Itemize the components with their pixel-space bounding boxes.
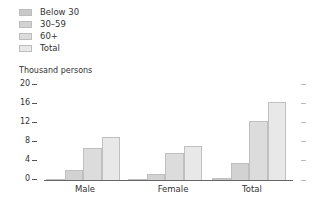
y-tick-label: 8 xyxy=(25,136,30,145)
right-tick xyxy=(301,103,306,104)
x-label-total: Total xyxy=(242,184,262,194)
right-tick xyxy=(301,160,306,161)
y-tick-label: 4 xyxy=(25,155,30,164)
legend-item-30-59: 30–59 xyxy=(19,18,79,30)
right-tick xyxy=(301,84,306,85)
legend-label: Total xyxy=(40,42,60,54)
legend: Below 30 30–59 60+ Total xyxy=(19,6,79,54)
legend-label: 30–59 xyxy=(40,18,66,30)
y-tick-20: 20 xyxy=(20,79,42,88)
right-tick xyxy=(301,180,306,181)
y-tick-label: 12 xyxy=(20,117,30,126)
legend-label: 60+ xyxy=(40,30,58,42)
bar-male-30-59 xyxy=(65,170,84,180)
legend-item-below-30: Below 30 xyxy=(19,6,79,18)
legend-label: Below 30 xyxy=(40,6,79,18)
y-tick-0: 0 xyxy=(25,174,47,183)
legend-item-total: Total xyxy=(19,42,79,54)
bar-male-total xyxy=(102,137,121,180)
right-tick xyxy=(301,122,306,123)
bar-male-60- xyxy=(83,148,102,180)
y-tick-label: 0 xyxy=(25,174,30,183)
bar-female-total xyxy=(184,146,203,180)
legend-item-60-plus: 60+ xyxy=(19,30,79,42)
right-tick xyxy=(301,141,306,142)
y-tick-4: 4 xyxy=(25,155,47,164)
legend-swatch xyxy=(19,9,32,16)
legend-swatch xyxy=(19,21,32,28)
legend-swatch xyxy=(19,45,32,52)
y-tick-label: 16 xyxy=(20,98,30,107)
bar-total-total xyxy=(268,102,287,180)
bar-total-30-59 xyxy=(231,163,250,180)
y-tick-12: 12 xyxy=(20,117,42,126)
y-tick-label: 20 xyxy=(20,79,30,88)
y-tick-16: 16 xyxy=(20,98,42,107)
y-axis-unit-label: Thousand persons xyxy=(19,66,92,75)
bar-total-60- xyxy=(249,121,268,180)
bar-female-60- xyxy=(165,153,184,180)
x-axis-baseline xyxy=(44,180,293,181)
y-tick-8: 8 xyxy=(25,136,47,145)
legend-swatch xyxy=(19,33,32,40)
x-label-male: Male xyxy=(75,184,95,194)
x-label-female: Female xyxy=(158,184,189,194)
